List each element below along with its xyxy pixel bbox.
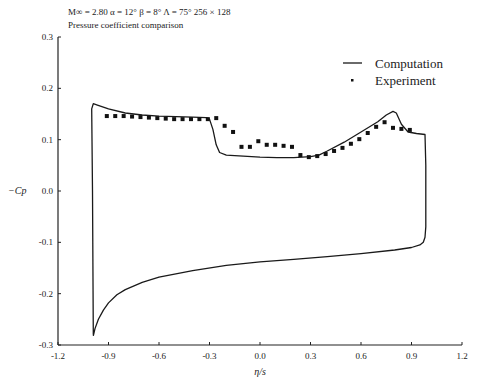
experiment-marker [214, 116, 218, 120]
experiment-marker [113, 114, 117, 118]
legend-label-computation: Computation [375, 56, 443, 71]
experiment-marker [324, 152, 328, 156]
experiment-marker [248, 145, 252, 149]
experiment-marker [122, 114, 126, 118]
experiment-marker [105, 114, 109, 118]
y-tick-label: 0.2 [42, 83, 53, 93]
x-tick-label: 0.3 [305, 351, 317, 361]
y-tick-label: 0.0 [42, 186, 54, 196]
x-tick-label: 0.9 [406, 351, 418, 361]
computation-curve [92, 104, 426, 336]
experiment-marker [408, 128, 412, 132]
experiment-marker [223, 124, 227, 128]
pressure-coefficient-chart: -1.2-0.9-0.6-0.30.00.30.60.91.20.30.20.1… [0, 0, 481, 392]
experiment-marker [256, 139, 260, 143]
chart-legend: ComputationExperiment [343, 56, 443, 88]
y-tick-label: -0.2 [39, 289, 53, 299]
y-tick-label: 0.1 [42, 135, 53, 145]
experiment-marker [349, 142, 353, 146]
experiment-marker [164, 117, 168, 121]
experiment-marker [197, 117, 201, 121]
experiment-marker [130, 115, 134, 119]
y-tick-label: 0.3 [42, 32, 54, 42]
legend-marker-swatch [351, 79, 354, 82]
experiment-marker [374, 125, 378, 129]
experiment-marker [332, 149, 336, 153]
x-tick-label: -0.3 [202, 351, 217, 361]
experiment-marker [298, 153, 302, 157]
experiment-marker [290, 145, 294, 149]
experiment-marker [366, 131, 370, 135]
experiment-marker [315, 154, 319, 158]
experiment-marker [138, 115, 142, 119]
x-tick-label: 0.0 [254, 351, 266, 361]
x-tick-label: 1.2 [456, 351, 467, 361]
y-axis-title: −Cp [8, 185, 26, 196]
experiment-marker [231, 130, 235, 134]
experiment-marker [206, 117, 210, 121]
experiment-marker [391, 126, 395, 130]
experiment-marker [147, 116, 151, 120]
experiment-marker [189, 117, 193, 121]
x-tick-label: -1.2 [51, 351, 65, 361]
experiment-marker [399, 127, 403, 131]
plot-area [92, 104, 426, 336]
experiment-marker [307, 155, 311, 159]
x-tick-label: 0.6 [355, 351, 367, 361]
experiment-marker [357, 137, 361, 141]
experiment-marker [282, 144, 286, 148]
experiment-marker [172, 117, 176, 121]
y-tick-label: -0.1 [39, 237, 53, 247]
experiment-marker [273, 143, 277, 147]
experiment-marker [155, 116, 159, 120]
experiment-marker [383, 120, 387, 124]
legend-label-experiment: Experiment [375, 73, 436, 88]
x-tick-label: -0.6 [152, 351, 167, 361]
experiment-marker [265, 143, 269, 147]
x-tick-label: -0.9 [101, 351, 116, 361]
y-tick-label: -0.3 [39, 340, 54, 350]
experiment-marker [340, 146, 344, 150]
experiment-marker [239, 145, 243, 149]
x-axis-title: η/s [254, 366, 266, 377]
experiment-marker [181, 117, 185, 121]
